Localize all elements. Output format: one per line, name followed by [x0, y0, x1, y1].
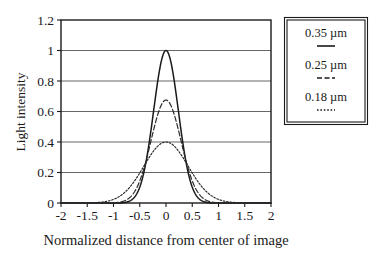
y-tick-label: 0.6 — [37, 104, 54, 119]
y-tick-label: 1.2 — [37, 13, 54, 28]
x-tick-label: 1.5 — [236, 208, 253, 223]
y-tick-label: 1 — [47, 43, 54, 58]
legend: 0.35 µm0.25 µm0.18 µm — [285, 18, 368, 125]
x-axis-label: Normalized distance from center of image — [43, 232, 288, 248]
x-tick-label: -2 — [55, 208, 66, 223]
legend-label-0: 0.35 µm — [305, 26, 347, 40]
x-tick-label: 0.5 — [184, 208, 201, 223]
x-tick-label: 0 — [163, 208, 170, 223]
x-tick-label: -0.5 — [129, 208, 151, 223]
y-tick-label: 0.8 — [37, 74, 54, 89]
figure-container: 00.20.40.60.811.2 -2-1.5-1-0.500.511.52 … — [0, 0, 371, 257]
y-tick-label: 0 — [47, 196, 54, 211]
x-tick-label: -1 — [108, 208, 119, 223]
light-intensity-chart: 00.20.40.60.811.2 -2-1.5-1-0.500.511.52 … — [0, 0, 371, 257]
legend-label-1: 0.25 µm — [305, 58, 347, 72]
x-tick-label: 1 — [215, 208, 222, 223]
y-axis-label: Light intensity — [13, 72, 28, 151]
x-tick-label: 2 — [268, 208, 275, 223]
x-tick-labels: -2-1.5-1-0.500.511.52 — [55, 208, 274, 223]
y-tick-label: 0.4 — [37, 135, 54, 150]
legend-label-2: 0.18 µm — [305, 90, 347, 104]
y-tick-label: 0.2 — [37, 165, 54, 180]
x-tick-label: -1.5 — [77, 208, 99, 223]
